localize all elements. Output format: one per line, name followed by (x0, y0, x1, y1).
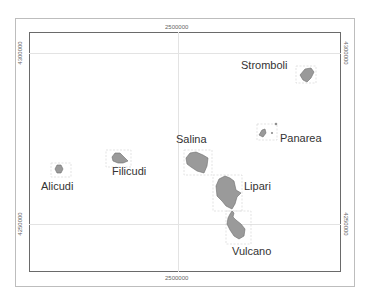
panarea-extent (257, 124, 277, 140)
island-stromboli[interactable] (300, 68, 314, 82)
island-filicudi[interactable] (112, 153, 128, 163)
island-panarea[interactable] (259, 129, 266, 137)
island-salina[interactable] (186, 152, 208, 173)
island-vulcano[interactable] (227, 211, 245, 239)
island-lipari[interactable] (216, 176, 241, 209)
label-filicudi: Filicudi (112, 165, 146, 177)
islet-basiluzzo (275, 123, 277, 125)
islands-layer (0, 0, 369, 302)
island-alicudi[interactable] (55, 165, 63, 173)
islet-panarea-small (271, 132, 272, 133)
label-panarea: Panarea (280, 132, 322, 144)
label-alicudi: Alicudi (41, 180, 73, 192)
label-vulcano: Vulcano (232, 245, 271, 257)
label-lipari: Lipari (244, 180, 271, 192)
label-stromboli: Stromboli (241, 59, 287, 71)
label-salina: Salina (176, 133, 207, 145)
